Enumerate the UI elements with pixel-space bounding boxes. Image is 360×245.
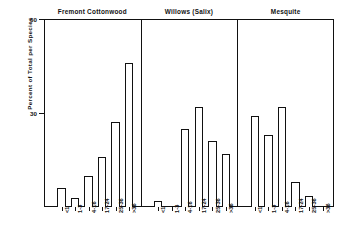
panel-title: Willows (Salix) [165,8,213,15]
x-tick-mark [268,207,269,211]
x-tick-label: <1 [64,206,70,213]
x-tick-label: >36 [228,203,234,213]
y-tick-mark [39,19,44,20]
x-tick-label: <1 [160,206,166,213]
x-tick-mark [89,207,90,211]
panel-divider [237,19,238,207]
x-tick-mark [102,207,103,211]
x-tick-label: 17-24 [201,198,207,213]
x-tick-mark [212,207,213,211]
bar [195,107,203,207]
x-tick-mark [75,207,76,211]
x-tick-mark [282,207,283,211]
panel-divider [141,19,142,207]
plot-frame-right [333,19,334,207]
bar [251,116,259,207]
bar [125,63,133,207]
x-tick-mark [172,207,173,211]
panel-title: Mesquite [271,8,301,15]
y-tick-label: 30 [30,110,37,117]
plot-frame-top [44,19,334,20]
x-tick-label: 1-3 [77,205,83,213]
panel-title: Fremont Cottonwood [58,8,127,15]
x-tick-mark [226,207,227,211]
x-tick-label: 4-16 [284,201,290,213]
bar [278,107,286,207]
figure: Percent of Total per Species 3060 Fremon… [0,0,360,245]
x-tick-label: 25-36 [118,198,124,213]
x-tick-label: 1-3 [174,205,180,213]
x-tick-label: 17-24 [298,198,304,213]
plot-area: 3060 Fremont Cottonwood<11-34-1617-2425-… [44,19,334,207]
bar [222,154,230,207]
x-tick-label: >36 [131,203,137,213]
x-tick-mark [199,207,200,211]
x-tick-mark [62,207,63,211]
x-tick-mark [116,207,117,211]
x-tick-label: 4-16 [91,201,97,213]
x-tick-label: 25-36 [215,198,221,213]
x-tick-label: 4-16 [187,201,193,213]
y-axis-line [44,19,45,207]
x-tick-label: 17-24 [104,198,110,213]
x-tick-label: 1-3 [271,205,277,213]
bar [208,141,216,207]
x-tick-label: <1 [257,206,263,213]
x-tick-label: 25-36 [311,198,317,213]
x-tick-mark [323,207,324,211]
x-tick-label: >36 [325,203,331,213]
bar [57,188,65,207]
bar [111,122,119,207]
y-tick-label: 60 [30,16,37,23]
x-tick-mark [295,207,296,211]
x-tick-mark [255,207,256,211]
x-tick-mark [309,207,310,211]
bar [181,129,189,207]
y-tick-mark [39,113,44,114]
bar [264,135,272,207]
